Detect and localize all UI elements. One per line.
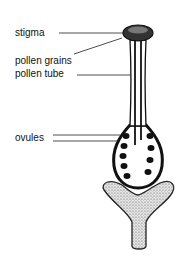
label-pollen-grains: pollen grains xyxy=(15,56,72,66)
receptacle xyxy=(103,181,174,249)
label-ovules: ovules xyxy=(15,133,44,143)
label-stigma: stigma xyxy=(15,28,44,38)
style xyxy=(130,40,146,126)
label-pollen-tube: pollen tube xyxy=(15,69,64,79)
